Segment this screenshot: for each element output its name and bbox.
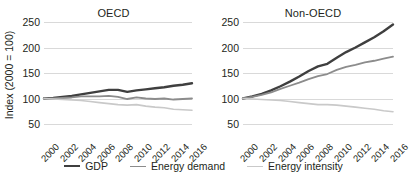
y-axis-tick-label: 150: [22, 68, 40, 79]
legend-item-gdp[interactable]: GDP: [64, 161, 108, 172]
panel-non-oecd-plot: 50100150200250 2000200220042006200820102…: [243, 22, 393, 124]
chart-legend: GDPEnergy demandEnergy intensity: [0, 158, 407, 174]
panel-oecd-plot: 50100150200250 2000200220042006200820102…: [44, 22, 192, 124]
panel-non-oecd-series: [243, 22, 393, 124]
panel-oecd: OECD 50100150200250 20002002200420062008…: [0, 0, 203, 155]
panel-oecd-series: [44, 22, 192, 124]
panel-oecd-x-axis: 200020022004200620082010201220142016: [44, 124, 192, 154]
panel-non-oecd: Non-OECD 50100150200250 2000200220042006…: [203, 0, 407, 155]
series-line-energy-intensity: [44, 99, 192, 111]
y-axis-tick-label: 250: [221, 17, 239, 28]
y-axis-tick-label: 50: [28, 119, 40, 130]
y-axis-tick-label: 100: [22, 93, 40, 104]
series-line-energy-intensity: [243, 99, 393, 112]
legend-swatch-icon: [247, 166, 263, 167]
legend-item-energy-demand[interactable]: Energy demand: [130, 161, 225, 172]
legend-label: GDP: [85, 161, 108, 172]
y-axis-tick-label: 150: [221, 68, 239, 79]
y-axis-tick-label: 100: [221, 93, 239, 104]
panel-non-oecd-x-axis: 200020022004200620082010201220142016: [243, 124, 393, 154]
legend-label: Energy intensity: [268, 161, 343, 172]
legend-swatch-icon: [130, 166, 146, 167]
legend-swatch-icon: [64, 165, 80, 167]
y-axis-tick-label: 250: [22, 17, 40, 28]
y-axis-tick-label: 200: [22, 42, 40, 53]
y-axis-tick-label: 200: [221, 42, 239, 53]
legend-item-energy-intensity[interactable]: Energy intensity: [247, 161, 343, 172]
y-axis-tick-label: 50: [227, 119, 239, 130]
legend-label: Energy demand: [151, 161, 225, 172]
